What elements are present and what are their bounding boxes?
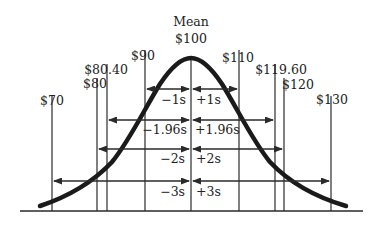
value-label-119-60: $119.60 xyxy=(255,62,307,77)
mean-value-label: $100 xyxy=(175,31,207,46)
interval-label-minus-2s: −2s xyxy=(160,151,185,166)
value-label-70: $70 xyxy=(40,93,64,108)
value-label-120: $120 xyxy=(282,77,314,92)
value-label-110: $110 xyxy=(222,50,254,65)
value-label-90: $90 xyxy=(131,48,155,63)
interval-label-minus-1s: −1s xyxy=(161,92,186,107)
value-label-80-40: $80.40 xyxy=(84,62,128,77)
interval-label-plus-1s: +1s xyxy=(196,92,221,107)
mean-label: Mean xyxy=(173,14,209,29)
value-label-80: $80 xyxy=(83,76,107,91)
interval-label-plus-2s: +2s xyxy=(196,151,221,166)
interval-label-plus-196s: +1.96s xyxy=(195,122,240,137)
normal-distribution-diagram: Mean $100 $70 $80 $80.40 $90 $110 $119.6… xyxy=(0,0,386,225)
interval-label-plus-3s: +3s xyxy=(196,184,221,199)
interval-label-minus-3s: −3s xyxy=(160,184,185,199)
value-label-130: $130 xyxy=(316,92,348,107)
interval-label-minus-196s: −1.96s xyxy=(142,122,187,137)
